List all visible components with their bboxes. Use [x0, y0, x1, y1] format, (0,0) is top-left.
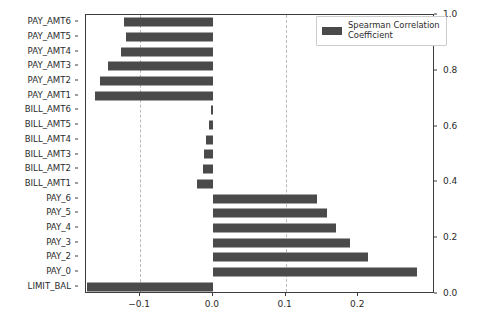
- bar-limit-bal: [87, 282, 213, 291]
- right-tick-mark: [434, 181, 437, 182]
- y-tick-mark: [75, 241, 78, 242]
- right-tick-mark: [434, 69, 437, 70]
- y-axis-right: 0.00.20.40.60.81.0: [434, 14, 494, 293]
- bar-row: [86, 235, 433, 250]
- bar-row: [86, 88, 433, 103]
- legend: Spearman Correlation Coefficient: [316, 16, 447, 46]
- bar-row: [86, 221, 433, 236]
- x-tick-label-00: 0.0: [205, 299, 219, 309]
- y-tick-label-pay-amt1: PAY_AMT1: [0, 90, 71, 99]
- bar-pay-amt1: [95, 91, 213, 100]
- y-tick-label-bill-amt6: BILL_AMT6: [0, 105, 71, 114]
- right-tick-label-0-6: 0.6: [443, 121, 457, 131]
- x-tick-mark: [139, 293, 140, 296]
- x-tick-label-01: 0.1: [277, 299, 291, 309]
- bar-row: [86, 191, 433, 206]
- bar-row: [86, 162, 433, 177]
- y-tick-mark: [75, 80, 78, 81]
- bar-row: [86, 279, 433, 293]
- bar-bill-amt6: [211, 106, 212, 115]
- bar-bill-amt3: [204, 150, 213, 159]
- y-tick-label-pay-amt6: PAY_AMT6: [0, 17, 71, 26]
- bar-bill-amt2: [203, 165, 213, 174]
- x-tick-label-01: −0.1: [128, 299, 150, 309]
- bar-pay-amt6: [124, 18, 213, 27]
- y-tick-label-pay-3: PAY_3: [0, 237, 71, 246]
- y-tick-mark: [75, 138, 78, 139]
- y-tick-label-bill-amt1: BILL_AMT1: [0, 179, 71, 188]
- x-tick-mark: [212, 293, 213, 296]
- y-tick-label-pay-amt2: PAY_AMT2: [0, 76, 71, 85]
- y-tick-mark: [75, 153, 78, 154]
- y-tick-mark: [75, 124, 78, 125]
- bar-row: [86, 147, 433, 162]
- y-tick-mark: [75, 256, 78, 257]
- x-tick-mark: [285, 293, 286, 296]
- y-tick-label-pay-0: PAY_0: [0, 267, 71, 276]
- y-tick-label-bill-amt5: BILL_AMT5: [0, 120, 71, 129]
- bar-pay-5: [213, 209, 327, 218]
- bar-row: [86, 44, 433, 59]
- y-tick-mark: [75, 94, 78, 95]
- y-tick-mark: [75, 197, 78, 198]
- y-tick-label-pay-4: PAY_4: [0, 223, 71, 232]
- y-tick-mark: [75, 65, 78, 66]
- legend-swatch-spearman: [322, 27, 342, 35]
- y-tick-label-pay-6: PAY_6: [0, 193, 71, 202]
- bar-pay-amt4: [121, 47, 213, 56]
- legend-label-spearman: Spearman Correlation Coefficient: [348, 21, 440, 41]
- bar-bill-amt5: [209, 121, 213, 130]
- x-axis: −0.10.00.10.2: [85, 293, 434, 327]
- x-tick-mark: [357, 293, 358, 296]
- bar-pay-6: [213, 194, 317, 203]
- x-tick-label-02: 0.2: [350, 299, 364, 309]
- right-tick-mark: [434, 293, 437, 294]
- right-tick-mark: [434, 125, 437, 126]
- y-tick-mark: [75, 36, 78, 37]
- y-tick-mark: [75, 182, 78, 183]
- bar-pay-amt3: [108, 62, 213, 71]
- y-tick-label-bill-amt3: BILL_AMT3: [0, 149, 71, 158]
- bar-row: [86, 118, 433, 133]
- bar-pay-2: [213, 253, 368, 262]
- y-tick-label-pay-amt3: PAY_AMT3: [0, 61, 71, 70]
- figure-canvas: PAY_AMT6PAY_AMT5PAY_AMT4PAY_AMT3PAY_AMT2…: [0, 0, 494, 327]
- bar-pay-0: [213, 267, 417, 276]
- y-axis-left: PAY_AMT6PAY_AMT5PAY_AMT4PAY_AMT3PAY_AMT2…: [0, 14, 78, 293]
- bar-row: [86, 132, 433, 147]
- bar-bill-amt4: [206, 135, 213, 144]
- y-tick-mark: [75, 168, 78, 169]
- bar-row: [86, 103, 433, 118]
- y-tick-mark: [75, 212, 78, 213]
- y-tick-label-pay-5: PAY_5: [0, 208, 71, 217]
- y-tick-mark: [75, 50, 78, 51]
- bar-bill-amt1: [197, 179, 213, 188]
- y-tick-label-limit-bal: LIMIT_BAL: [0, 281, 71, 290]
- bar-row: [86, 265, 433, 280]
- bar-row: [86, 59, 433, 74]
- y-tick-label-bill-amt4: BILL_AMT4: [0, 135, 71, 144]
- y-tick-mark: [75, 270, 78, 271]
- bar-row: [86, 250, 433, 265]
- right-tick-mark: [434, 237, 437, 238]
- y-tick-mark: [75, 21, 78, 22]
- y-tick-label-bill-amt2: BILL_AMT2: [0, 164, 71, 173]
- y-tick-mark: [75, 109, 78, 110]
- bar-pay-amt2: [100, 77, 213, 86]
- y-tick-mark: [75, 226, 78, 227]
- y-tick-label-pay-amt4: PAY_AMT4: [0, 46, 71, 55]
- bar-row: [86, 74, 433, 89]
- plot-area: [85, 14, 434, 293]
- bar-pay-4: [213, 223, 337, 232]
- bar-pay-3: [213, 238, 350, 247]
- right-tick-label-0-8: 0.8: [443, 65, 457, 75]
- bar-row: [86, 177, 433, 192]
- bar-row: [86, 206, 433, 221]
- bar-pay-amt5: [126, 33, 213, 42]
- right-tick-label-0-2: 0.2: [443, 232, 457, 242]
- y-tick-mark: [75, 285, 78, 286]
- y-tick-label-pay-amt5: PAY_AMT5: [0, 32, 71, 41]
- right-tick-label-0-0: 0.0: [443, 288, 457, 298]
- right-tick-mark: [434, 14, 437, 15]
- y-tick-label-pay-2: PAY_2: [0, 252, 71, 261]
